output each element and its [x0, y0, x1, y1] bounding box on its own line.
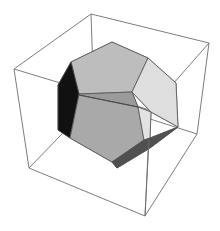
box-edge-front-vertical — [145, 140, 149, 216]
occluding-faces — [58, 42, 178, 168]
box-edge — [29, 168, 145, 216]
box-edge — [14, 69, 29, 168]
box-edge — [197, 43, 209, 134]
dodecahedron-figure — [0, 0, 220, 231]
figure-canvas — [0, 0, 220, 231]
box-edge — [91, 14, 209, 43]
